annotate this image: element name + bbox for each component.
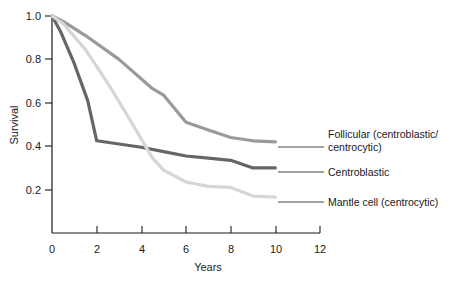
x-tick-label: 6: [183, 243, 189, 255]
x-tick-label: 8: [228, 243, 234, 255]
x-tick-label: 10: [270, 243, 282, 255]
y-tick-label: 1.0: [26, 10, 41, 22]
y-tick-label: 0.6: [26, 97, 41, 109]
series-curve-follicular: [52, 16, 275, 142]
series-label-follicular: Follicular (centroblastic/ centrocytic): [328, 128, 438, 153]
x-tick-label: 12: [314, 243, 326, 255]
y-axis-tick-labels: 1.0 0.8 0.6 0.4 0.2: [26, 10, 41, 196]
series-label-follicular-line1: Follicular (centroblastic/: [328, 128, 438, 140]
y-axis-ticks: [45, 16, 52, 190]
series-label-centroblastic: Centroblastic: [328, 166, 389, 178]
series-label-mantle-cell: Mantle cell (centrocytic): [328, 196, 438, 208]
x-axis-ticks: [97, 226, 320, 233]
chart-figure: 1.0 0.8 0.6 0.4 0.2 0 2 4 6 8 10 12 Year…: [0, 0, 464, 285]
series-curve-mantle-cell: [52, 16, 275, 197]
y-tick-label: 0.2: [26, 184, 41, 196]
y-axis-title: Survival: [8, 105, 20, 144]
x-axis-tick-labels: 0 2 4 6 8 10 12: [49, 243, 326, 255]
y-tick-label: 0.4: [26, 140, 41, 152]
x-tick-label: 2: [94, 243, 100, 255]
x-axis-title: Years: [194, 261, 222, 273]
x-tick-label: 0: [49, 243, 55, 255]
series-curve-centroblastic: [52, 16, 275, 168]
y-tick-label: 0.8: [26, 53, 41, 65]
x-tick-label: 4: [139, 243, 145, 255]
survival-curve-chart: 1.0 0.8 0.6 0.4 0.2 0 2 4 6 8 10 12 Year…: [0, 0, 464, 285]
series-label-follicular-line2: centrocytic): [328, 141, 382, 153]
